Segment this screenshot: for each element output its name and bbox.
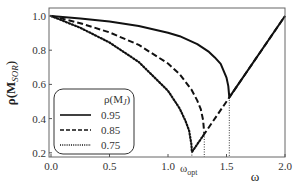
chart: 0.00.51.01.52.0 0.20.40.60.81.0 ω ρ(MSOR… xyxy=(0,0,295,185)
x-axis-label: ω xyxy=(251,169,260,184)
svg-text:ωopt: ωopt xyxy=(180,162,198,177)
legend-label: 0.85 xyxy=(101,124,121,136)
y-tick-label: 0.6 xyxy=(32,78,46,90)
legend: ρ(MJ) 0.950.850.75 xyxy=(54,89,134,154)
series-line-095 xyxy=(51,16,285,97)
y-tick-label: 0.4 xyxy=(32,113,46,125)
legend-label: 0.75 xyxy=(101,139,121,151)
y-tick-label: 0.2 xyxy=(32,147,46,159)
legend-label: 0.95 xyxy=(101,109,121,121)
y-axis-label: ρ(MSOR) xyxy=(3,61,20,105)
legend-title: ρ(MJ) xyxy=(104,93,131,107)
svg-text:ρ(MSOR): ρ(MSOR) xyxy=(3,61,20,105)
x-tick-label: 0.5 xyxy=(103,160,117,172)
x-tick-label: 2.0 xyxy=(278,160,292,172)
x-tick-label: 1.0 xyxy=(161,160,175,172)
y-tick-label: 1.0 xyxy=(32,10,46,22)
omega-opt-annotation: ωopt xyxy=(180,162,198,177)
x-tick-label: 0.0 xyxy=(44,160,58,172)
y-tick-label: 0.8 xyxy=(32,44,46,56)
x-tick-label: 1.5 xyxy=(220,160,234,172)
